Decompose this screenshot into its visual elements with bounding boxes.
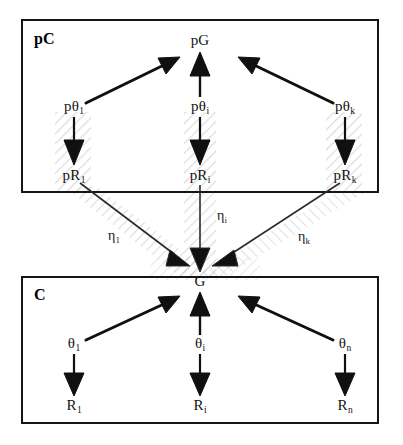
node-Ri: Ri [193, 398, 206, 413]
node-ptheta1: pθ1 [64, 99, 84, 114]
arrow-pRk-to-G-etak [212, 183, 340, 266]
node-pRk-base: pR [334, 167, 352, 183]
node-Rn-base: R [337, 397, 347, 413]
node-Ri-sub: i [204, 405, 207, 415]
node-pRi: pRi [190, 168, 211, 183]
node-pRi-sub: i [208, 175, 211, 185]
node-thetai-sub: i [203, 343, 206, 353]
node-ptheta1-base: pθ [64, 98, 79, 114]
arrow-pthetak-to-pG [238, 57, 333, 103]
arrow-theta1-to-R1 [64, 354, 84, 396]
diagram-canvas: pC C pG pθ1 pθi pθk pR1 pRi pRk G θ1 θi … [0, 0, 403, 445]
node-R1: R1 [66, 398, 81, 413]
edge-label-eta1-sub: 1 [115, 235, 120, 245]
node-theta1-base: θ [68, 335, 75, 351]
node-pRk: pRk [334, 168, 357, 183]
node-theta1-sub: 1 [76, 343, 81, 353]
c-box-title: C [34, 287, 46, 303]
node-pR1-base: pR [63, 167, 81, 183]
node-pthetai: pθi [191, 99, 209, 114]
arrow-thetan-to-G [238, 296, 333, 340]
node-Rn-sub: n [348, 405, 353, 415]
arrow-thetai-to-G [190, 292, 210, 335]
arrow-ptheta1-to-pG [86, 57, 180, 103]
arrow-thetai-to-Ri [190, 354, 210, 396]
node-pthetak-base: pθ [335, 98, 350, 114]
node-Rn: Rn [337, 398, 352, 413]
node-pR1: pR1 [63, 168, 86, 183]
edge-label-etak: ηk [298, 230, 310, 244]
node-Ri-base: R [193, 397, 203, 413]
node-R1-base: R [66, 397, 76, 413]
edge-label-etai-sub: i [224, 215, 227, 225]
node-pthetai-base: pθ [191, 98, 206, 114]
edge-label-etai: ηi [217, 209, 227, 223]
node-pthetai-sub: i [206, 106, 209, 116]
arrow-pR1-to-G-eta1 [80, 183, 190, 266]
node-thetan: θn [339, 336, 351, 351]
node-thetai: θi [195, 336, 205, 351]
node-pG: pG [191, 33, 210, 48]
node-ptheta1-sub: 1 [79, 106, 84, 116]
node-pthetak-sub: k [350, 106, 355, 116]
diagram-graphics [0, 0, 403, 445]
edge-label-eta1: η1 [108, 229, 120, 243]
node-G-base: G [194, 273, 205, 289]
arrow-thetan-to-Rn [335, 354, 355, 396]
node-pR1-sub: 1 [81, 175, 86, 185]
edge-label-etak-sub: k [305, 236, 310, 246]
pc-box-title: pC [34, 31, 54, 47]
arrow-theta1-to-G [86, 296, 180, 340]
node-pRi-base: pR [190, 167, 208, 183]
node-theta1: θ1 [68, 336, 80, 351]
node-pthetak: pθk [335, 99, 355, 114]
node-thetai-base: θ [195, 335, 202, 351]
node-R1-sub: 1 [77, 405, 82, 415]
node-pRk-sub: k [352, 175, 357, 185]
arrow-pthetai-to-pG [190, 52, 210, 97]
node-pG-base: pG [191, 32, 210, 48]
node-thetan-base: θ [339, 335, 346, 351]
c-internal-arrows [64, 292, 355, 396]
node-G: G [194, 274, 205, 289]
node-thetan-sub: n [347, 343, 352, 353]
